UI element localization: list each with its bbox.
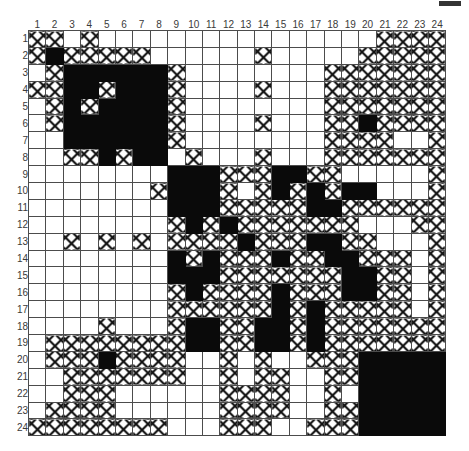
matrix-cell-r15-c13 bbox=[237, 267, 254, 284]
matrix-cell-r16-c18 bbox=[324, 284, 341, 301]
matrix-cell-r14-c16 bbox=[289, 250, 306, 267]
matrix-cell-r12-c2 bbox=[46, 216, 63, 233]
matrix-cell-r8-c2 bbox=[46, 149, 63, 166]
matrix-cell-r16-c6 bbox=[115, 284, 132, 301]
matrix-cell-r18-c20 bbox=[359, 318, 376, 335]
matrix-cell-r8-c18 bbox=[324, 149, 341, 166]
matrix-col-header-17: 17 bbox=[307, 12, 324, 31]
matrix-cell-r19-c11 bbox=[202, 335, 219, 352]
matrix-cell-r17-c3 bbox=[63, 301, 80, 318]
matrix-cell-r2-c4 bbox=[81, 47, 98, 64]
matrix-cell-r5-c2 bbox=[46, 98, 63, 115]
matrix-cell-r5-c23 bbox=[411, 98, 428, 115]
matrix-cell-r22-c2 bbox=[46, 385, 63, 402]
matrix-cell-r1-c8 bbox=[150, 31, 167, 48]
matrix-cell-r6-c3 bbox=[63, 115, 80, 132]
matrix-cell-r17-c12 bbox=[220, 301, 237, 318]
matrix-cell-r2-c7 bbox=[133, 47, 150, 64]
matrix-cell-r3-c3 bbox=[63, 64, 80, 81]
matrix-cell-r20-c16 bbox=[289, 351, 306, 368]
matrix-cell-r15-c23 bbox=[411, 267, 428, 284]
matrix-cell-r5-c14 bbox=[255, 98, 272, 115]
matrix-cell-r16-c16 bbox=[289, 284, 306, 301]
matrix-cell-r7-c23 bbox=[411, 132, 428, 149]
matrix-cell-r19-c10 bbox=[185, 335, 202, 352]
matrix-cell-r22-c11 bbox=[202, 385, 219, 402]
matrix-cell-r7-c9 bbox=[168, 132, 185, 149]
matrix-row: 16 bbox=[10, 284, 446, 301]
matrix-col-header-23: 23 bbox=[411, 12, 428, 31]
matrix-cell-r2-c14 bbox=[255, 47, 272, 64]
matrix-cell-r14-c10 bbox=[185, 250, 202, 267]
matrix-cell-r8-c11 bbox=[202, 149, 219, 166]
matrix-cell-r12-c4 bbox=[81, 216, 98, 233]
matrix-cell-r3-c22 bbox=[394, 64, 411, 81]
matrix-row-header-20: 20 bbox=[10, 351, 29, 368]
matrix-cell-r4-c5 bbox=[98, 81, 115, 98]
matrix-cell-r20-c11 bbox=[202, 351, 219, 368]
matrix-cell-r10-c4 bbox=[81, 183, 98, 200]
matrix-cell-r2-c12 bbox=[220, 47, 237, 64]
matrix-cell-r6-c19 bbox=[342, 115, 359, 132]
matrix-cell-r17-c2 bbox=[46, 301, 63, 318]
matrix-cell-r19-c12 bbox=[220, 335, 237, 352]
matrix-cell-r5-c8 bbox=[150, 98, 167, 115]
matrix-cell-r3-c23 bbox=[411, 64, 428, 81]
matrix-col-header-19: 19 bbox=[342, 12, 359, 31]
matrix-cell-r13-c1 bbox=[29, 233, 46, 250]
matrix-cell-r21-c17 bbox=[307, 368, 324, 385]
matrix-cell-r22-c15 bbox=[272, 385, 289, 402]
matrix-cell-r12-c7 bbox=[133, 216, 150, 233]
matrix-cell-r10-c23 bbox=[411, 183, 428, 200]
matrix-cell-r18-c9 bbox=[168, 318, 185, 335]
matrix-cell-r18-c1 bbox=[29, 318, 46, 335]
matrix-row: 15 bbox=[10, 267, 446, 284]
matrix-cell-r17-c21 bbox=[376, 301, 393, 318]
matrix-cell-r20-c17 bbox=[307, 351, 324, 368]
matrix-cell-r6-c13 bbox=[237, 115, 254, 132]
matrix-cell-r22-c14 bbox=[255, 385, 272, 402]
matrix-row-header-9: 9 bbox=[10, 166, 29, 183]
matrix-cell-r11-c24 bbox=[428, 199, 445, 216]
matrix-cell-r1-c6 bbox=[115, 31, 132, 48]
matrix-cell-r9-c9 bbox=[168, 166, 185, 183]
matrix-cell-r12-c9 bbox=[168, 216, 185, 233]
matrix-cell-r10-c12 bbox=[220, 183, 237, 200]
matrix-cell-r13-c8 bbox=[150, 233, 167, 250]
matrix-cell-r12-c22 bbox=[394, 216, 411, 233]
matrix-body: 123456789101112131415161718192021222324 bbox=[10, 31, 446, 436]
matrix-cell-r12-c17 bbox=[307, 216, 324, 233]
matrix-cell-r11-c19 bbox=[342, 199, 359, 216]
matrix-cell-r15-c1 bbox=[29, 267, 46, 284]
matrix-cell-r9-c17 bbox=[307, 166, 324, 183]
matrix-cell-r14-c11 bbox=[202, 250, 219, 267]
matrix-cell-r14-c3 bbox=[63, 250, 80, 267]
matrix-cell-r14-c8 bbox=[150, 250, 167, 267]
matrix-cell-r9-c16 bbox=[289, 166, 306, 183]
matrix-cell-r4-c1 bbox=[29, 81, 46, 98]
matrix-row-header-18: 18 bbox=[10, 318, 29, 335]
matrix-col-header-16: 16 bbox=[289, 12, 306, 31]
matrix-cell-r16-c22 bbox=[394, 284, 411, 301]
matrix-cell-r22-c20 bbox=[359, 385, 376, 402]
matrix-cell-r19-c13 bbox=[237, 335, 254, 352]
matrix-row: 3 bbox=[10, 64, 446, 81]
matrix-cell-r23-c15 bbox=[272, 402, 289, 419]
matrix-cell-r3-c15 bbox=[272, 64, 289, 81]
matrix-cell-r9-c5 bbox=[98, 166, 115, 183]
matrix-cell-r23-c13 bbox=[237, 402, 254, 419]
matrix-row: 11 bbox=[10, 199, 446, 216]
matrix-cell-r9-c13 bbox=[237, 166, 254, 183]
matrix-cell-r17-c15 bbox=[272, 301, 289, 318]
matrix-cell-r18-c3 bbox=[63, 318, 80, 335]
matrix-cell-r17-c5 bbox=[98, 301, 115, 318]
matrix-cell-r2-c1 bbox=[29, 47, 46, 64]
matrix-cell-r8-c12 bbox=[220, 149, 237, 166]
matrix-cell-r1-c20 bbox=[359, 31, 376, 48]
matrix-cell-r5-c3 bbox=[63, 98, 80, 115]
matrix-cell-r2-c9 bbox=[168, 47, 185, 64]
matrix-cell-r10-c14 bbox=[255, 183, 272, 200]
matrix-cell-r13-c16 bbox=[289, 233, 306, 250]
matrix-cell-r18-c6 bbox=[115, 318, 132, 335]
matrix-cell-r6-c20 bbox=[359, 115, 376, 132]
